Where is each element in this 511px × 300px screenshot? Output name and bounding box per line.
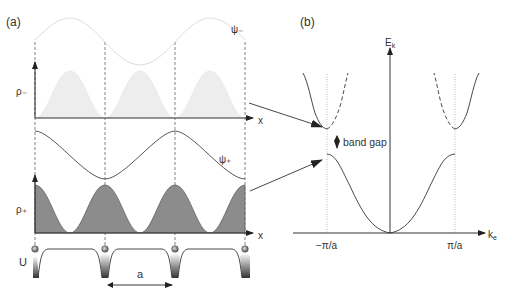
x-axis-label-top: x (258, 115, 263, 126)
lower-band-curve (327, 154, 455, 233)
rho-plus-fill (35, 185, 245, 233)
rho-minus-label: ρ₋ (16, 86, 27, 97)
psi-plus-curve (35, 131, 245, 179)
connector-arrow-psi-plus (250, 160, 322, 191)
atom-icon (102, 246, 109, 253)
panel-b-label: (b) (300, 15, 315, 29)
upper-band-right-dashed (434, 73, 455, 129)
psi-plus-label: ψ₊ (219, 154, 231, 165)
panel-a-label: (a) (6, 15, 21, 29)
rho-minus-fill (35, 71, 245, 118)
psi-minus-label: ψ₋ (231, 24, 243, 35)
upper-band-right-curve (455, 73, 479, 129)
atom-icon (172, 246, 179, 253)
tick-label-minus-pi-a: −π/a (316, 240, 338, 251)
upper-band-left-curve (303, 73, 327, 129)
lattice-constant-label: a (137, 268, 144, 280)
band-gap-diagram: (a) ψ₋ ρ₋ x ψ₊ ρ₊ x U a (0, 0, 511, 300)
atom-icon (32, 246, 39, 253)
x-axis-label-bottom: x (258, 230, 263, 241)
band-gap-label: band gap (343, 136, 387, 148)
upper-band-left-dashed (327, 73, 348, 129)
psi-minus-curve (35, 18, 245, 65)
potential-label: U (19, 256, 27, 268)
rho-plus-label: ρ₊ (16, 204, 27, 215)
atom-icon (242, 246, 249, 253)
tick-label-pi-a: π/a (447, 240, 463, 251)
energy-axis-label: Ek (385, 37, 396, 49)
wavevector-axis-label: ke (488, 229, 497, 241)
brillouin-zone-boundaries (327, 74, 455, 233)
